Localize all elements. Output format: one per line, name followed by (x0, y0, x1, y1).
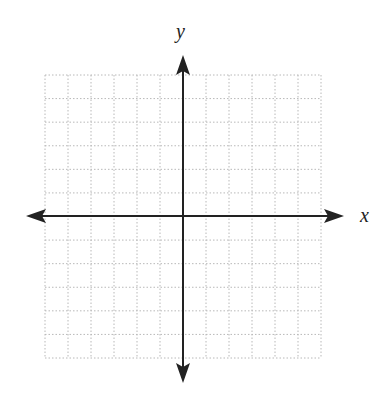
y-axis-label: y (176, 20, 185, 43)
x-axis-label: x (360, 204, 369, 227)
coordinate-plane (0, 0, 390, 396)
